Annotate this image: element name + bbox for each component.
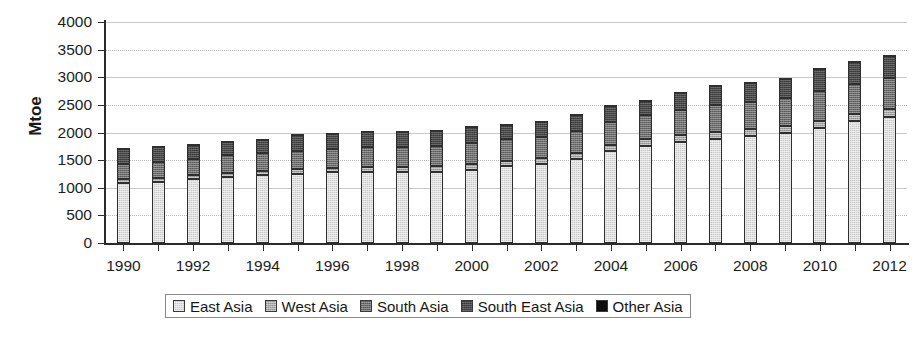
bar-segment-2005-east-asia [639, 146, 652, 243]
bar-segment-2002-west-asia [535, 158, 548, 164]
bar-segment-2010-west-asia [813, 121, 826, 128]
x-tick-label-1996: 1996 [304, 258, 360, 274]
bar-segment-2011-other-asia [848, 61, 861, 63]
y-tick-label-1500: 1500 [30, 152, 92, 168]
bar-segment-2000-other-asia [465, 126, 478, 128]
bar-segment-2006-south-east-asia [674, 93, 687, 110]
bar-2010 [813, 22, 826, 243]
y-tick-3500 [98, 50, 106, 51]
x-tick-2002 [541, 243, 542, 251]
bar-segment-1996-south-asia [326, 149, 339, 168]
y-tick-3000 [98, 77, 106, 78]
bar-segment-2012-south-east-asia [883, 56, 896, 78]
legend-item-south-asia[interactable]: South Asia [360, 299, 449, 314]
y-tick-label-2000: 2000 [30, 125, 92, 141]
bar-segment-2009-other-asia [779, 78, 792, 80]
bar-segment-1992-west-asia [187, 175, 200, 179]
bar-segment-2008-south-asia [744, 102, 757, 129]
bar-segment-1997-other-asia [361, 131, 374, 133]
legend-item-other-asia[interactable]: Other Asia [596, 299, 683, 314]
bar-2005 [639, 22, 652, 243]
bar-segment-2000-east-asia [465, 170, 478, 243]
x-tick-2006 [681, 243, 682, 251]
x-tick-1995 [298, 243, 299, 251]
bar-segment-1998-west-asia [396, 167, 409, 172]
bar-segment-1996-south-east-asia [326, 134, 339, 149]
x-tick-label-2002: 2002 [513, 258, 569, 274]
bar-segment-2002-other-asia [535, 121, 548, 123]
bar-segment-1991-other-asia [152, 146, 165, 148]
bar-segment-2010-south-asia [813, 91, 826, 120]
bar-segment-1996-east-asia [326, 172, 339, 243]
bar-2008 [744, 22, 757, 243]
bar-segment-1995-south-asia [291, 151, 304, 169]
bar-segment-2011-south-east-asia [848, 62, 861, 84]
bar-segment-1999-other-asia [430, 130, 443, 132]
bar-segment-1990-east-asia [117, 183, 130, 243]
bar-segment-2007-east-asia [709, 139, 722, 243]
x-tick-label-2012: 2012 [862, 258, 918, 274]
stacked-bar-chart-figure: Mtoe 40003500300025002000150010005000 19… [0, 0, 918, 339]
x-tick-1993 [228, 243, 229, 251]
x-tick-2010 [820, 243, 821, 251]
bar-2004 [604, 22, 617, 243]
legend-item-west-asia[interactable]: West Asia [265, 299, 348, 314]
bar-segment-1999-south-asia [430, 146, 443, 166]
bar-segment-2011-south-asia [848, 84, 861, 114]
x-tick-1994 [263, 243, 264, 251]
bar-2012 [883, 22, 896, 243]
legend-item-south-east-asia[interactable]: South East Asia [461, 299, 584, 314]
bar-segment-2012-west-asia [883, 109, 896, 117]
x-tick-2005 [646, 243, 647, 251]
bar-segment-1995-east-asia [291, 174, 304, 243]
y-tick-label-0: 0 [30, 235, 92, 251]
x-tick-2003 [576, 243, 577, 251]
x-tick-label-1992: 1992 [165, 258, 221, 274]
bar-2001 [500, 22, 513, 243]
x-tick-label-2004: 2004 [583, 258, 639, 274]
y-tick-label-500: 500 [30, 207, 92, 223]
bar-segment-2000-south-asia [465, 143, 478, 164]
bar-segment-2010-south-east-asia [813, 69, 826, 91]
bar-segment-2005-west-asia [639, 139, 652, 145]
bar-segment-1998-other-asia [396, 131, 409, 133]
bar-segment-2004-south-asia [604, 122, 617, 145]
bar-segment-2003-east-asia [570, 159, 583, 243]
bar-1997 [361, 22, 374, 243]
x-tick-1997 [367, 243, 368, 251]
bar-segment-1993-south-asia [221, 155, 234, 172]
x-tick-label-1994: 1994 [235, 258, 291, 274]
bar-segment-1997-east-asia [361, 172, 374, 243]
bar-segment-2010-other-asia [813, 68, 826, 70]
x-tick-1996 [332, 243, 333, 251]
bar-segment-2000-south-east-asia [465, 126, 478, 143]
x-tick-2000 [472, 243, 473, 251]
bar-segment-1998-east-asia [396, 172, 409, 243]
series-swatch-south-asia [360, 300, 372, 312]
y-tick-4000 [98, 22, 106, 23]
x-tick-2001 [507, 243, 508, 251]
bar-segment-1993-west-asia [221, 173, 234, 177]
bar-segment-2004-west-asia [604, 145, 617, 151]
bar-segment-2011-west-asia [848, 114, 861, 122]
legend-item-east-asia[interactable]: East Asia [173, 299, 253, 314]
y-tick-1000 [98, 188, 106, 189]
bar-segment-2008-west-asia [744, 129, 757, 136]
legend-label: South East Asia [478, 299, 584, 314]
series-swatch-west-asia [265, 300, 277, 312]
bar-segment-1999-east-asia [430, 172, 443, 243]
bar-segment-2008-east-asia [744, 136, 757, 243]
x-tick-label-1998: 1998 [374, 258, 430, 274]
bar-1992 [187, 22, 200, 243]
bar-segment-2012-east-asia [883, 117, 896, 243]
bar-segment-1992-east-asia [187, 179, 200, 243]
bar-segment-2007-south-east-asia [709, 86, 722, 105]
bar-segment-2007-south-asia [709, 105, 722, 132]
bar-segment-1991-south-east-asia [152, 146, 165, 162]
bar-segment-2000-west-asia [465, 164, 478, 169]
bar-segment-1992-south-asia [187, 159, 200, 176]
bar-segment-1992-south-east-asia [187, 144, 200, 158]
bar-segment-2008-other-asia [744, 82, 757, 84]
bar-segment-2001-south-east-asia [500, 125, 513, 139]
bar-segment-2011-east-asia [848, 121, 861, 243]
